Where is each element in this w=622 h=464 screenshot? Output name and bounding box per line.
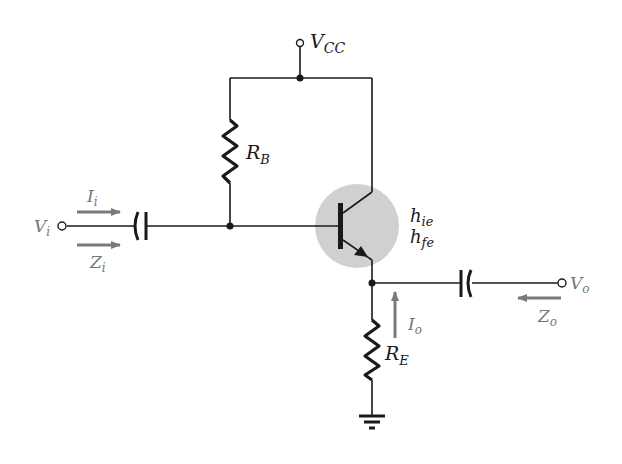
vo-label: Vo	[570, 273, 590, 296]
zi-label: Zi	[89, 252, 106, 275]
rb-resistor	[223, 120, 237, 183]
vcc-terminal	[297, 40, 304, 47]
zo-label: Zo	[537, 306, 557, 329]
ground-icon	[359, 416, 385, 428]
vcc-label: VCC	[310, 30, 345, 56]
vi-terminal	[58, 222, 66, 230]
vo-terminal	[558, 279, 566, 287]
rb-label: RB	[245, 141, 270, 167]
circuit-diagram: VCC RB RE Vi Ii Zi Vo Io Zo hie hfe	[0, 0, 622, 464]
re-resistor	[365, 320, 379, 380]
output-capacitor	[461, 270, 471, 297]
vi-label: Vi	[34, 216, 50, 239]
re-label: RE	[384, 342, 409, 368]
junction-dot-emitter	[369, 280, 376, 287]
base-bar	[338, 203, 343, 249]
junction-dot-vcc	[297, 75, 304, 82]
io-label: Io	[407, 314, 422, 337]
junction-dot-base	[227, 223, 234, 230]
hfe-label: hfe	[410, 226, 434, 250]
input-capacitor	[135, 212, 146, 240]
ii-label: Ii	[86, 186, 98, 209]
